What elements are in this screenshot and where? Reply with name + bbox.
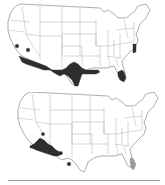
range-point-arizona [59, 151, 62, 154]
range-florida-light [130, 158, 136, 170]
us-outline [18, 92, 158, 172]
figure-divider [8, 180, 160, 181]
range-point-new-mexico [67, 162, 71, 166]
us-range-map-top [0, 0, 165, 92]
range-point-nevada [41, 132, 44, 135]
us-range-map-bottom [0, 92, 165, 180]
range-point-california-2 [26, 48, 30, 52]
range-north-carolina-coast [133, 44, 136, 53]
range-point-california-1 [15, 44, 19, 48]
